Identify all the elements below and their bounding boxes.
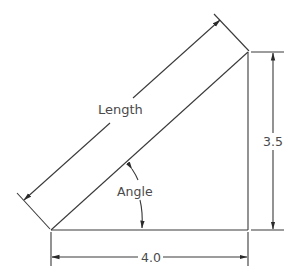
triangle-diagram: Length Angle 3.5 4.0 xyxy=(0,0,298,279)
length-extension-bottom xyxy=(17,193,50,229)
angle-arc-lower xyxy=(140,200,142,228)
base-label: 4.0 xyxy=(141,250,161,265)
length-extension-top xyxy=(214,14,249,51)
angle-arc-upper xyxy=(132,169,138,180)
triangle xyxy=(51,52,248,230)
length-dim-line-upper xyxy=(133,20,220,98)
angle-label: Angle xyxy=(117,184,153,199)
length-label: Length xyxy=(98,102,143,117)
hypotenuse-edge xyxy=(51,52,248,230)
height-label: 3.5 xyxy=(263,134,283,149)
